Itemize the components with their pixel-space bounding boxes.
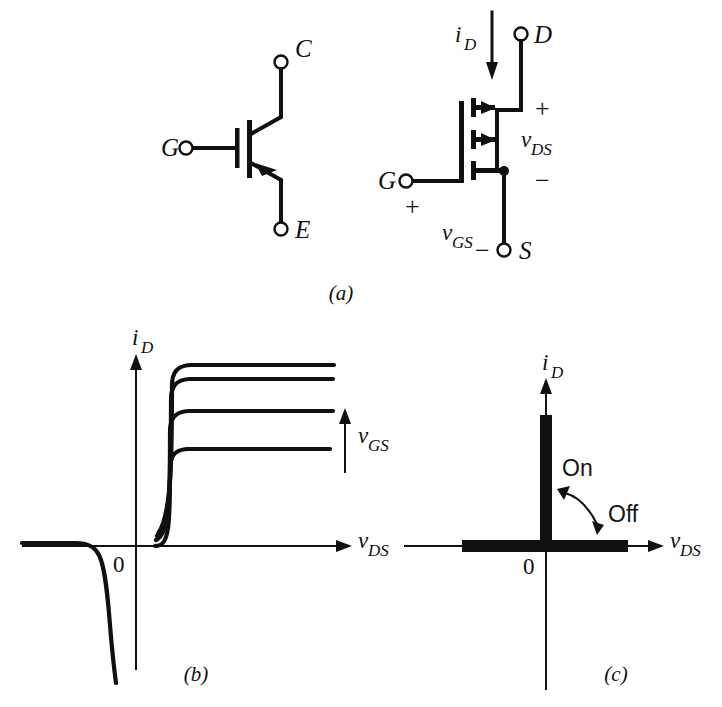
- label-drain-current: i D: [455, 22, 477, 54]
- panel-c-chart: On Off 0 i D v DS: [404, 350, 701, 690]
- channel-tick-bottom: [471, 161, 476, 180]
- panel-c-x-axis-label-sub: DS: [679, 541, 701, 560]
- figure-container: C G E D G S: [0, 0, 722, 707]
- collector-lead: [251, 69, 281, 134]
- label-collector: C: [295, 35, 312, 62]
- panel-b-y-axis-label-main: i: [132, 325, 138, 350]
- panel-b-origin-label: 0: [113, 552, 125, 577]
- caption-a: (a): [329, 281, 354, 305]
- channel-tick-mid: [471, 130, 476, 149]
- panel-b-vgs-annotation: v GS: [358, 423, 389, 455]
- drain-terminal-node: [515, 28, 528, 41]
- drain-current-arrowhead: [486, 62, 498, 80]
- label-vds: v DS: [521, 127, 552, 159]
- panel-b-curve-2: [156, 411, 333, 540]
- figure-svg: C G E D G S: [0, 0, 722, 707]
- label-drain: D: [533, 21, 552, 48]
- panel-b-y-axis-label-sub: D: [140, 338, 154, 357]
- channel-bar: [247, 120, 252, 178]
- panel-c-y-axis-label-main: i: [542, 350, 548, 375]
- panel-b-x-axis-label: v DS: [358, 528, 389, 560]
- label-source: S: [519, 237, 532, 264]
- channel-arrow-mid: [481, 133, 496, 146]
- drain-lead: [500, 41, 521, 110]
- panel-b-vgs-arrowhead: [339, 408, 351, 424]
- mosfet-gate-terminal-node: [400, 175, 413, 188]
- panel-b-x-axis-label-sub: DS: [367, 541, 389, 560]
- panel-b-curve-3: [157, 379, 333, 536]
- panel-c-state-arrow-curve: [565, 493, 597, 524]
- label-emitter: E: [294, 216, 310, 243]
- minus-sign-vds: −: [535, 166, 550, 195]
- igbt-symbol: C G E: [161, 35, 312, 243]
- gate-terminal-node: [180, 142, 193, 155]
- label-gate-mosfet: G: [378, 167, 396, 194]
- label-vds-sub: DS: [530, 140, 552, 159]
- caption-c: (c): [604, 662, 627, 686]
- panel-c-off-bar: [462, 540, 628, 552]
- plus-sign-vds: +: [535, 94, 550, 123]
- panel-c-y-axis-label-sub: D: [550, 363, 564, 382]
- panel-b-x-axis-arrowhead: [336, 540, 352, 552]
- plus-sign-vgs: +: [405, 192, 420, 221]
- label-vgs-sub: GS: [452, 233, 473, 252]
- panel-c-on-label: On: [562, 455, 593, 481]
- panel-c-on-bar: [540, 415, 552, 548]
- minus-sign-vgs: −: [475, 236, 490, 265]
- panel-c-x-axis-arrowhead: [648, 540, 664, 552]
- label-vgs: v GS: [442, 220, 473, 252]
- emitter-terminal-node: [275, 223, 288, 236]
- panel-b-curve-1: [155, 449, 330, 546]
- channel-arrow-top: [481, 101, 496, 114]
- mosfet-gate-plate: [459, 101, 464, 181]
- caption-b: (b): [184, 662, 209, 686]
- collector-terminal-node: [275, 56, 288, 69]
- source-terminal-node: [498, 244, 511, 257]
- panel-c-state-arrowhead-off: [592, 521, 604, 535]
- panel-b-chart: 0 i D v DS v GS: [22, 325, 389, 683]
- panel-b-y-axis-label: i D: [132, 325, 154, 357]
- label-drain-current-sub: D: [463, 35, 477, 54]
- panel-c-origin-label: 0: [523, 554, 535, 579]
- panel-c-off-label: Off: [608, 501, 639, 527]
- mosfet-symbol: D G S i D + v DS − + v GS −: [378, 12, 552, 265]
- label-gate-igbt: G: [161, 134, 179, 161]
- channel-tick-top: [471, 98, 476, 117]
- label-drain-current-main: i: [455, 22, 461, 47]
- panel-b-vgs-annotation-sub: GS: [368, 436, 389, 455]
- panel-c-y-axis-label: i D: [542, 350, 564, 382]
- panel-b-breakdown-curve: [22, 543, 116, 683]
- panel-c-x-axis-label: v DS: [670, 528, 701, 560]
